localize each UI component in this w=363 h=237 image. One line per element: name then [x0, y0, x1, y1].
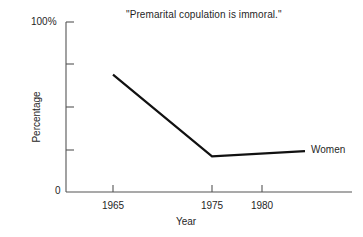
chart-title: "Premarital copulation is immoral." — [126, 10, 282, 20]
y-axis-max-tick-label: 100% — [31, 17, 57, 27]
y-axis-min-tick-label: 0 — [55, 186, 61, 196]
chart-figure: "Premarital copulation is immoral." 100%… — [0, 0, 363, 237]
x-axis-tick-label-1980: 1980 — [251, 201, 273, 211]
x-axis-ticks — [113, 185, 262, 192]
chart-canvas — [0, 0, 363, 237]
x-axis-title: Year — [176, 217, 196, 227]
data-line-women — [113, 75, 305, 157]
series-label-women: Women — [311, 145, 345, 155]
x-axis-tick-label-1965: 1965 — [102, 201, 124, 211]
y-axis-ticks — [66, 22, 74, 150]
x-axis-tick-label-1975: 1975 — [201, 201, 223, 211]
y-axis-title: Percentage — [32, 72, 42, 162]
